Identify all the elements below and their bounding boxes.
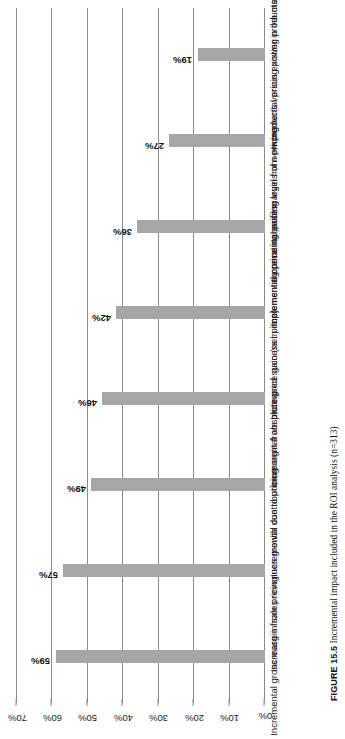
- category-label: Incremental pricing power in the marketp…: [269, 0, 279, 149]
- bar-value-label: 46%: [78, 398, 97, 408]
- figure-caption-label: FIGURE 15.5: [329, 646, 339, 701]
- bar-slot: 36%: [6, 184, 265, 270]
- bar-slot: 27%: [6, 98, 265, 184]
- figure-caption: FIGURE 15.5 Incremental impact included …: [329, 10, 339, 701]
- axis-tick-label-70: 70%: [7, 714, 26, 724]
- figure-caption-text: Incremental impact included in the ROI a…: [329, 426, 339, 643]
- bar: 59%: [56, 650, 265, 663]
- bar-value-label: 36%: [113, 227, 132, 237]
- bar-slot: 57%: [6, 527, 265, 613]
- chart-plot-area: 0%10%20%30%40%50%60%70% 59%57%49%46%42%3…: [6, 8, 265, 703]
- bar: 27%: [169, 134, 265, 147]
- bar: 49%: [91, 478, 265, 491]
- axis-tick-label-30: 30%: [149, 714, 168, 724]
- bar-value-label: 59%: [31, 656, 50, 666]
- axis-tick-label-60: 60%: [43, 714, 62, 724]
- axis-tick-label-40: 40%: [114, 714, 133, 724]
- bar: 36%: [137, 220, 265, 233]
- axis-tick-label-50: 50%: [78, 714, 97, 724]
- bar: 42%: [116, 306, 265, 319]
- bar-slot: 59%: [6, 613, 265, 699]
- category-slot: Incremental pricing power in the marketp…: [265, 12, 325, 98]
- bar: 57%: [63, 564, 265, 577]
- category-axis: Incremental gross margin from pricingInc…: [265, 8, 325, 703]
- bar-value-label: 27%: [145, 141, 164, 151]
- bar-slot: 19%: [6, 12, 265, 98]
- axis-tick-label-10: 10%: [220, 714, 239, 724]
- bar-value-label: 42%: [92, 313, 111, 323]
- bar-slot: 42%: [6, 270, 265, 356]
- bar: 46%: [102, 392, 265, 405]
- bar-value-label: 49%: [67, 484, 86, 494]
- axis-tick-label-20: 20%: [185, 714, 204, 724]
- bar-series: 59%57%49%46%42%36%27%19%: [6, 8, 265, 703]
- bar-value-label: 19%: [173, 55, 192, 65]
- bar-slot: 49%: [6, 441, 265, 527]
- bar-value-label: 57%: [39, 570, 58, 580]
- bar-slot: 46%: [6, 356, 265, 442]
- bar: 19%: [198, 48, 265, 61]
- value-axis: 0%10%20%30%40%50%60%70%: [6, 707, 265, 739]
